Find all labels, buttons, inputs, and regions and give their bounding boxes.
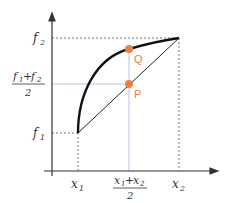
concavity-diagram: Q P f 2 f 1 + f 2 2 f 1 x 1 x 1 + x 2 2 … — [0, 0, 229, 203]
label-p: P — [134, 88, 141, 100]
point-p — [125, 80, 133, 88]
y-label-f1: f 1 — [32, 126, 45, 142]
y-label-midpoint: f 1 + f 2 2 — [12, 70, 45, 98]
svg-text:x: x — [71, 177, 78, 191]
midpoint-guides — [52, 49, 129, 171]
x-label-midpoint: x 1 + x 2 2 — [113, 174, 147, 201]
x-axis-arrow-icon — [210, 168, 218, 174]
svg-text:x: x — [114, 174, 121, 187]
svg-text:2: 2 — [179, 184, 185, 193]
y-label-f2: f 2 — [32, 31, 45, 47]
point-q — [125, 45, 133, 53]
svg-text:1: 1 — [79, 184, 84, 193]
label-q: Q — [134, 53, 143, 65]
dashed-guides — [52, 38, 179, 171]
svg-text:f: f — [32, 126, 40, 140]
svg-text:2: 2 — [36, 76, 42, 84]
y-axis-arrow-icon — [49, 13, 55, 21]
svg-text:f: f — [12, 70, 19, 83]
svg-text:2: 2 — [139, 180, 145, 188]
svg-text:f: f — [32, 31, 40, 45]
svg-text:x: x — [172, 177, 179, 191]
axes — [44, 13, 218, 176]
svg-text:2: 2 — [24, 87, 31, 98]
svg-text:2: 2 — [126, 190, 133, 201]
svg-text:x: x — [133, 174, 140, 187]
x-label-x2: x 2 — [172, 177, 185, 193]
svg-text:2: 2 — [39, 38, 45, 47]
x-label-x1: x 1 — [71, 177, 84, 193]
svg-text:1: 1 — [40, 133, 45, 142]
svg-text:f: f — [30, 70, 37, 83]
